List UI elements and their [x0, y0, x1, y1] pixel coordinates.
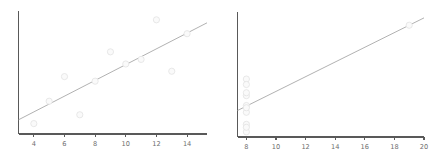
- x-axis-tick-label: 6: [62, 140, 66, 148]
- x-axis-tick-label: 8: [93, 140, 97, 148]
- x-axis-tick-label: 14: [331, 143, 339, 151]
- scatter-data-point: [406, 22, 412, 28]
- x-axis-tick-label: 16: [361, 143, 369, 151]
- x-axis-tick-label: 14: [183, 140, 191, 148]
- x-axis-tick-label: 20: [420, 143, 428, 151]
- regression-trendline: [238, 18, 425, 111]
- chart-canvas-right: 8101214161820: [215, 0, 430, 163]
- scatter-data-point: [107, 49, 113, 55]
- x-axis-tick-label: 18: [390, 143, 398, 151]
- scatter-data-point: [184, 31, 190, 37]
- scatter-data-point: [31, 120, 37, 126]
- scatter-data-point: [243, 90, 249, 96]
- scatter-data-point: [61, 74, 67, 80]
- scatter-data-point: [138, 56, 144, 62]
- x-axis-tick-label: 12: [301, 143, 309, 151]
- scatter-data-point: [169, 68, 175, 74]
- scatter-data-point: [243, 81, 249, 87]
- x-axis-tick-label: 4: [32, 140, 36, 148]
- scatter-data-point: [123, 61, 129, 67]
- scatter-data-point: [46, 98, 52, 104]
- scatter-data-point: [153, 17, 159, 23]
- x-axis-tick-label: 12: [152, 140, 160, 148]
- chart-panel-left: 468101214: [0, 0, 215, 163]
- regression-trendline: [19, 23, 208, 120]
- scatter-data-point: [243, 105, 249, 111]
- scatter-data-point: [243, 124, 249, 130]
- x-axis-tick-label: 10: [122, 140, 130, 148]
- scatter-plot-figure: 468101214 8101214161820: [0, 0, 430, 163]
- chart-canvas-left: 468101214: [0, 0, 215, 163]
- scatter-data-point: [92, 78, 98, 84]
- scatter-data-point: [77, 112, 83, 118]
- x-axis-tick-label: 8: [244, 143, 248, 151]
- chart-panel-right: 8101214161820: [215, 0, 430, 163]
- x-axis-tick-label: 10: [272, 143, 280, 151]
